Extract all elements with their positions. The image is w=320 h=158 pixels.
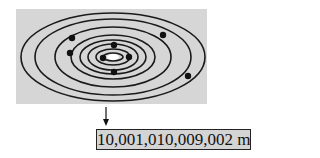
sun: [107, 54, 119, 60]
planet: [100, 55, 106, 61]
planet: [111, 69, 117, 75]
planet: [160, 32, 166, 38]
planet: [69, 35, 75, 41]
distance-label: 10,001,010,009,002 m: [96, 129, 251, 150]
planet: [126, 54, 132, 60]
arrow-down-icon: [103, 107, 109, 126]
planet: [185, 73, 191, 79]
distance-value: 10,001,010,009,002 m: [97, 130, 250, 149]
planet: [111, 42, 117, 48]
planet: [67, 50, 73, 56]
